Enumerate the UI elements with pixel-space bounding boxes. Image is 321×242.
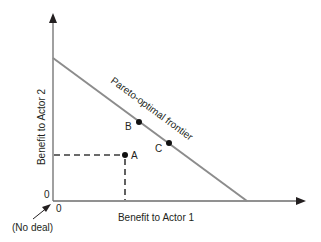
x-axis-arrow-icon — [296, 197, 306, 205]
point-a-label: A — [131, 150, 138, 161]
point-c-label: C — [155, 143, 162, 154]
y-axis-arrow-icon — [49, 13, 57, 23]
y-axis-label: Benefit to Actor 2 — [36, 88, 47, 165]
point-c-marker — [166, 140, 172, 146]
x-axis-label: Benefit to Actor 1 — [118, 212, 195, 223]
pareto-frontier-line — [53, 58, 247, 201]
point-b-marker — [136, 119, 142, 125]
y-zero-label: 0 — [44, 189, 50, 200]
point-b-label: B — [125, 121, 132, 132]
no-deal-label: (No deal) — [12, 222, 53, 233]
point-a-marker — [122, 152, 128, 158]
x-zero-label: 0 — [56, 203, 62, 214]
pareto-diagram: A B C Pareto-optimal frontier Benefit to… — [0, 0, 321, 242]
